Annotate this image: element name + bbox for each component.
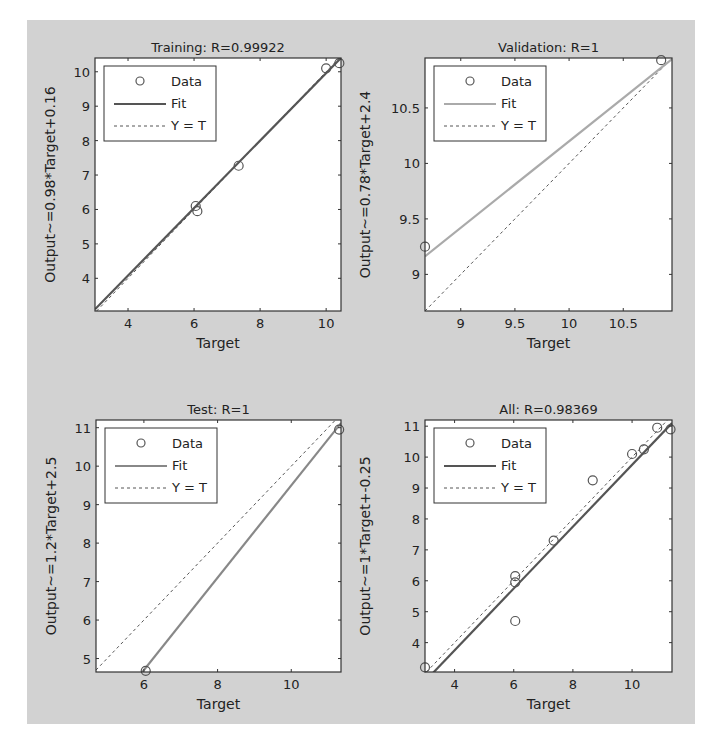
validation-legend-label: Y = T <box>500 118 536 133</box>
training-legend-label: Y = T <box>170 118 206 133</box>
test-ytick-label: 10 <box>74 459 91 474</box>
training-legend-label: Fit <box>171 96 186 111</box>
all-xtick-label: 10 <box>624 677 641 692</box>
validation-legend: DataFitY = T <box>434 66 546 141</box>
validation-legend-label: Fit <box>501 96 516 111</box>
all-ytick-label: 4 <box>412 636 420 651</box>
validation-xtick-label: 10.5 <box>609 316 638 331</box>
validation-title: Validation: R=1 <box>498 40 599 55</box>
validation-plot: 99.51010.599.51010.5Validation: R=1Targe… <box>357 40 672 351</box>
all-xtick-label: 6 <box>510 677 518 692</box>
all-legend-label: Data <box>501 436 532 451</box>
test-legend-label: Data <box>172 436 203 451</box>
test-legend-label: Y = T <box>171 480 207 495</box>
training-plot: 4681045678910Training: R=0.99922TargetOu… <box>42 40 344 351</box>
all-xtick-label: 4 <box>450 677 458 692</box>
regression-figure: 4681045678910Training: R=0.99922TargetOu… <box>0 0 724 754</box>
all-ytick-label: 10 <box>403 450 420 465</box>
validation-xlabel: Target <box>526 335 571 351</box>
validation-ytick-label: 9.5 <box>399 212 420 227</box>
training-xtick-label: 4 <box>124 316 132 331</box>
test-ylabel: Output~=1.2*Target+2.5 <box>43 457 59 636</box>
all-legend: DataFitY = T <box>434 428 546 503</box>
all-ytick-label: 8 <box>412 512 420 527</box>
test-ytick-label: 5 <box>83 652 91 667</box>
all-ytick-label: 5 <box>412 605 420 620</box>
test-xtick-label: 10 <box>283 677 300 692</box>
validation-ytick-label: 9 <box>412 267 420 282</box>
test-ytick-label: 9 <box>83 498 91 513</box>
validation-xtick-label: 10 <box>561 316 578 331</box>
training-ylabel: Output~=0.98*Target+0.16 <box>42 86 58 283</box>
test-ytick-label: 11 <box>74 421 91 436</box>
all-legend-label: Y = T <box>500 480 536 495</box>
training-ytick-label: 7 <box>82 168 90 183</box>
training-xtick-label: 6 <box>190 316 198 331</box>
all-title: All: R=0.98369 <box>499 402 597 417</box>
validation-ylabel: Output~=0.78*Target+2.4 <box>357 91 373 279</box>
test-ytick-label: 7 <box>83 575 91 590</box>
all-xtick-label: 8 <box>569 677 577 692</box>
all-ytick-label: 11 <box>403 419 420 434</box>
training-ytick-label: 8 <box>82 134 90 149</box>
test-legend-label: Fit <box>172 458 187 473</box>
all-legend-label: Fit <box>501 458 516 473</box>
training-ytick-label: 10 <box>73 65 90 80</box>
training-legend: DataFitY = T <box>104 66 216 141</box>
all-ytick-label: 6 <box>412 574 420 589</box>
training-title: Training: R=0.99922 <box>150 40 285 55</box>
all-ytick-label: 9 <box>412 481 420 496</box>
training-ytick-label: 4 <box>82 271 90 286</box>
training-ytick-label: 9 <box>82 99 90 114</box>
all-ytick-label: 7 <box>412 543 420 558</box>
test-ytick-label: 6 <box>83 613 91 628</box>
training-ytick-label: 5 <box>82 237 90 252</box>
validation-ytick-label: 10.5 <box>391 101 420 116</box>
training-xlabel: Target <box>195 335 240 351</box>
test-xtick-label: 6 <box>140 677 148 692</box>
test-title: Test: R=1 <box>186 402 249 417</box>
training-ytick-label: 6 <box>82 202 90 217</box>
all-xlabel: Target <box>526 696 571 712</box>
test-legend: DataFitY = T <box>105 428 217 503</box>
test-plot: 6810567891011Test: R=1TargetOutput~=1.2*… <box>43 402 344 730</box>
validation-legend-label: Data <box>501 74 532 89</box>
validation-xtick-label: 9.5 <box>505 316 526 331</box>
all-ylabel: Output~=1*Target+-0.25 <box>357 456 373 635</box>
test-ytick-label: 8 <box>83 536 91 551</box>
test-xlabel: Target <box>196 696 241 712</box>
validation-ytick-label: 10 <box>403 156 420 171</box>
all-plot: 468104567891011All: R=0.98369TargetOutpu… <box>357 402 675 712</box>
test-xtick-label: 8 <box>213 677 221 692</box>
validation-xtick-label: 9 <box>457 316 465 331</box>
training-legend-label: Data <box>171 74 202 89</box>
training-xtick-label: 8 <box>256 316 264 331</box>
training-xtick-label: 10 <box>318 316 335 331</box>
